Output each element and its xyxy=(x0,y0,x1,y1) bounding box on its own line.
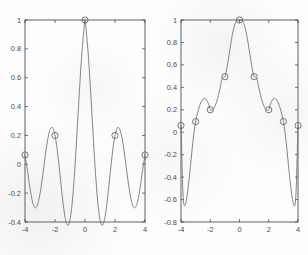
y-tick-label: 0.8 xyxy=(11,44,21,53)
y-tick-label: 0.8 xyxy=(167,38,177,47)
y-tick-label: 0.6 xyxy=(11,73,21,82)
x-tick-label: 0 xyxy=(83,225,87,234)
y-tick-label: 0.4 xyxy=(167,83,177,92)
y-tick-label: -0.2 xyxy=(8,189,21,198)
x-tick-label: 4 xyxy=(143,225,147,234)
x-tick-label: -2 xyxy=(207,225,214,234)
plot-axes-box xyxy=(25,20,145,222)
y-tick-label: -0.4 xyxy=(164,173,177,182)
x-tick-label: -2 xyxy=(52,225,59,234)
x-tick-label: 0 xyxy=(237,225,241,234)
y-tick-label: -0.8 xyxy=(164,218,177,227)
y-tick-label: 1 xyxy=(173,16,177,25)
y-tick-label: 1 xyxy=(17,16,21,25)
y-tick-label: 0.2 xyxy=(11,131,21,140)
plot-figure-left: -0.4-0.200.20.40.60.81-4-2024 xyxy=(0,0,154,255)
y-tick-label: -0.4 xyxy=(8,218,21,227)
screenshot-root: -0.4-0.200.20.40.60.81-4-2024 -0.8-0.6-0… xyxy=(0,0,308,255)
plot-figure-right: -0.8-0.6-0.4-0.200.20.40.60.81-4-2024 xyxy=(154,0,308,255)
y-tick-label: 0.2 xyxy=(167,105,177,114)
x-tick-label: -4 xyxy=(178,225,185,234)
x-tick-label: 2 xyxy=(267,225,271,234)
data-curve xyxy=(25,20,145,225)
y-tick-label: 0.4 xyxy=(11,102,21,111)
plot-canvas-left: -0.4-0.200.20.40.60.81-4-2024 xyxy=(0,0,154,255)
y-tick-label: -0.6 xyxy=(164,195,177,204)
plot-canvas-right: -0.8-0.6-0.4-0.200.20.40.60.81-4-2024 xyxy=(154,0,308,255)
y-tick-label: 0 xyxy=(173,128,177,137)
data-curve xyxy=(181,20,298,206)
x-tick-label: -4 xyxy=(22,225,29,234)
y-tick-label: 0.6 xyxy=(167,60,177,69)
x-tick-label: 4 xyxy=(296,225,300,234)
x-tick-label: 2 xyxy=(113,225,117,234)
y-tick-label: 0 xyxy=(17,160,21,169)
y-tick-label: -0.2 xyxy=(164,150,177,159)
